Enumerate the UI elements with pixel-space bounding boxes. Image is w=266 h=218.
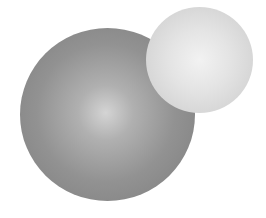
scene — [0, 0, 266, 218]
small-light-sphere — [146, 7, 253, 113]
